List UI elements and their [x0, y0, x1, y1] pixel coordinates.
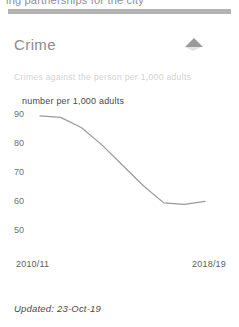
- crime-series-line: [40, 116, 205, 204]
- clipped-page-text: ing partnerships for the city: [0, 0, 239, 8]
- triangle-shadow-glyph: [185, 47, 201, 51]
- page-title: Crime: [14, 36, 56, 53]
- x-tick-label: 2018/19: [192, 259, 226, 269]
- crime-card: Crime Crimes against the person per 1,00…: [0, 20, 239, 327]
- crime-line-chart: number per 1,000 adults 90 80 70 60 50 2…: [0, 96, 239, 286]
- triangle-up-glyph: [185, 38, 203, 47]
- triangle-up-icon[interactable]: [184, 38, 204, 52]
- card-subtitle: Crimes against the person per 1,000 adul…: [14, 72, 225, 82]
- chart-plot-area: [0, 96, 239, 286]
- card-header: Crime: [14, 32, 225, 66]
- updated-timestamp: Updated: 23-Oct-19: [14, 303, 101, 314]
- clipped-page-text-label: ing partnerships for the city: [0, 0, 239, 6]
- x-tick-label: 2010/11: [16, 259, 49, 269]
- section-divider-bar: [8, 9, 231, 14]
